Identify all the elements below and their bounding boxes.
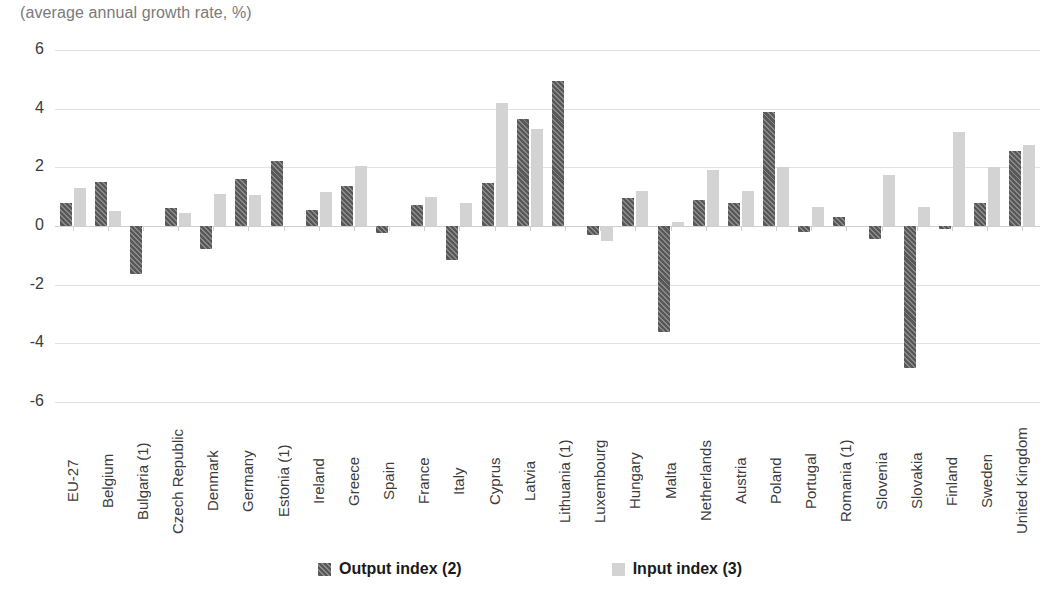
x-axis-category-label: Netherlands <box>696 406 716 556</box>
bar-group <box>301 50 336 402</box>
bar-output <box>833 217 845 226</box>
bar-output <box>1009 151 1021 226</box>
y-axis-tick-label: 4 <box>10 99 44 117</box>
x-axis-tick <box>389 226 390 231</box>
x-axis-tick <box>424 226 425 231</box>
x-axis-tick <box>846 226 847 231</box>
x-axis-tick <box>952 226 953 231</box>
x-axis-category-label: Belgium <box>98 406 118 556</box>
bar-input <box>249 195 261 226</box>
x-axis-category: United Kingdom <box>1005 404 1040 554</box>
x-axis-category-label: Czech Republic <box>168 406 188 556</box>
x-axis-category-label: Lithuania (1) <box>555 406 575 556</box>
x-axis-tick <box>917 226 918 231</box>
bar-output <box>200 226 212 249</box>
bar-input <box>918 207 930 226</box>
gridline <box>55 402 1040 403</box>
x-axis-tick <box>530 226 531 231</box>
x-axis-category-label: Bulgaria (1) <box>133 406 153 556</box>
bar-group <box>969 50 1004 402</box>
x-axis-category: Slovakia <box>899 404 934 554</box>
bar-group <box>336 50 371 402</box>
legend-item-output: Output index (2) <box>318 560 462 578</box>
x-axis-category: Czech Republic <box>161 404 196 554</box>
bar-output <box>165 208 177 226</box>
bar-group <box>231 50 266 402</box>
bar-output <box>763 112 775 226</box>
bar-columns <box>55 50 1040 402</box>
bar-output <box>235 179 247 226</box>
bar-input <box>883 175 895 226</box>
bar-input <box>1023 145 1035 226</box>
x-axis-category-label: Slovenia <box>872 406 892 556</box>
bar-input <box>390 226 402 227</box>
bar-group <box>688 50 723 402</box>
x-axis-tick <box>987 226 988 231</box>
bar-group <box>618 50 653 402</box>
x-axis-category-label: Slovakia <box>907 406 927 556</box>
x-axis-category-label: United Kingdom <box>1012 406 1032 556</box>
x-axis-category: Estonia (1) <box>266 404 301 554</box>
x-axis-category: Portugal <box>794 404 829 554</box>
bar-group <box>899 50 934 402</box>
bar-output <box>517 119 529 226</box>
x-axis-category-label: Malta <box>661 406 681 556</box>
bar-output <box>693 200 705 226</box>
x-axis-category: Denmark <box>196 404 231 554</box>
x-axis-category: Romania (1) <box>829 404 864 554</box>
x-axis-category-label: Italy <box>449 406 469 556</box>
y-axis-tick-label: 2 <box>10 157 44 175</box>
bar-group <box>266 50 301 402</box>
x-axis-tick <box>319 226 320 231</box>
bar-output <box>869 226 881 239</box>
bar-output <box>60 203 72 226</box>
x-axis-category-label: Sweden <box>977 406 997 556</box>
x-axis-category-label: Portugal <box>801 406 821 556</box>
bar-input <box>707 170 719 226</box>
x-axis-tick <box>73 226 74 231</box>
bar-output <box>130 226 142 274</box>
x-axis-category: Italy <box>442 404 477 554</box>
bar-group <box>442 50 477 402</box>
bar-output <box>658 226 670 332</box>
x-axis-category-label: Austria <box>731 406 751 556</box>
chart-legend: Output index (2) Input index (3) <box>0 560 1060 578</box>
bar-output <box>939 226 951 229</box>
chart-container: (average annual growth rate, %) 6420-2-4… <box>0 0 1060 596</box>
x-axis-tick <box>776 226 777 231</box>
x-axis-category: Netherlands <box>688 404 723 554</box>
x-axis-category: Belgium <box>90 404 125 554</box>
x-axis-category: France <box>407 404 442 554</box>
bar-input <box>672 222 684 226</box>
x-axis-tick <box>741 226 742 231</box>
y-axis-tick-label: 6 <box>10 40 44 58</box>
bar-group <box>161 50 196 402</box>
bar-input <box>460 203 472 226</box>
x-axis-category: Hungary <box>618 404 653 554</box>
x-axis-tick <box>284 226 285 231</box>
x-axis-category: Greece <box>336 404 371 554</box>
bar-group <box>477 50 512 402</box>
y-axis-tick-label: -4 <box>10 333 44 351</box>
bar-input <box>109 211 121 226</box>
chart-subtitle: (average annual growth rate, %) <box>20 4 252 22</box>
bar-group <box>407 50 442 402</box>
x-axis-category-label: Latvia <box>520 406 540 556</box>
bar-group <box>512 50 547 402</box>
x-axis-category: EU-27 <box>55 404 90 554</box>
y-axis-tick-label: 0 <box>10 216 44 234</box>
bar-group <box>547 50 582 402</box>
x-axis-tick <box>108 226 109 231</box>
legend-label-output: Output index (2) <box>339 560 462 578</box>
bar-group <box>864 50 899 402</box>
x-axis-tick <box>600 226 601 231</box>
x-axis-category: Bulgaria (1) <box>125 404 160 554</box>
x-axis-category-label: Spain <box>379 406 399 556</box>
x-axis-category: Cyprus <box>477 404 512 554</box>
bar-group <box>90 50 125 402</box>
x-axis-category: Slovenia <box>864 404 899 554</box>
bar-output <box>552 81 564 226</box>
legend-swatch-input-icon <box>612 563 625 576</box>
x-axis-category-label: Germany <box>238 406 258 556</box>
x-axis-category-label: Finland <box>942 406 962 556</box>
